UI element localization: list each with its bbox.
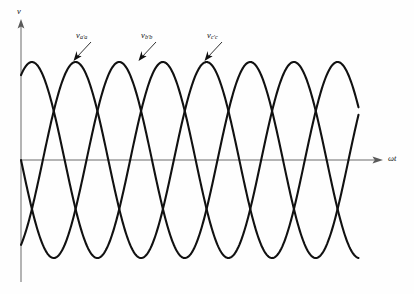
waveform-plot (0, 0, 414, 294)
curve-label-phase-a: va'a (76, 31, 87, 40)
waveform-figure: v ωt va'a vb'b vc'c (0, 0, 414, 294)
leader-line-phase-a (77, 42, 92, 58)
leader-line-phase-b (142, 42, 157, 58)
x-axis-arrowhead (373, 156, 384, 163)
leader-arrowhead-phase-a (74, 51, 82, 61)
y-axis-label: v (17, 7, 21, 16)
curve-label-phase-b: vb'b (141, 31, 152, 40)
curve-label-phase-b-sub: b'b (145, 33, 153, 40)
leader-line-phase-c (208, 42, 223, 58)
curve-label-phase-c: vc'c (207, 31, 218, 40)
leader-arrowhead-phase-b (139, 51, 147, 61)
x-axis-label: ωt (388, 154, 396, 163)
annotation-leaders-group (74, 42, 223, 61)
curve-label-phase-a-sub: a'a (80, 33, 88, 40)
curve-label-phase-c-sub: c'c (211, 33, 218, 40)
leader-arrowhead-phase-c (205, 51, 213, 61)
